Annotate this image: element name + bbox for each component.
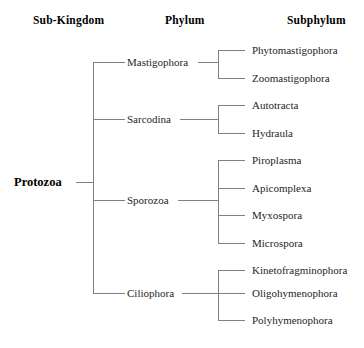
node-sporozoa: Sporozoa <box>127 194 169 206</box>
connector-phylum-arm-sarcodina <box>93 119 125 120</box>
node-zoomastigophora: Zoomastigophora <box>252 72 330 84</box>
connector-phylum-arm-sporozoa <box>93 200 125 201</box>
node-ciliophora: Ciliophora <box>127 287 174 299</box>
taxonomy-tree-diagram: Sub-Kingdom Phylum Subphylum Protozoa Ma… <box>0 0 364 348</box>
connector-arm-zoomastigophora <box>218 78 245 79</box>
node-hydraula: Hydraula <box>252 127 293 139</box>
node-piroplasma: Piroplasma <box>252 154 302 166</box>
node-microspora: Microspora <box>252 237 303 249</box>
column-header-subphylum: Subphylum <box>287 14 346 26</box>
connector-arm-hydraula <box>218 133 245 134</box>
column-header-sub-kingdom: Sub-Kingdom <box>33 14 104 26</box>
connector-mastigophora-stub <box>198 62 218 63</box>
connector-sporozoa-stub <box>178 200 218 201</box>
node-apicomplexa: Apicomplexa <box>252 182 311 194</box>
node-oligohymenophora: Oligohymenophora <box>252 287 338 299</box>
node-kinetofragminophora: Kinetofragminophora <box>252 264 347 276</box>
connector-arm-kinetofragminophora <box>218 270 245 271</box>
node-myxospora: Myxospora <box>252 209 302 221</box>
node-polyhymenophora: Polyhymenophora <box>252 314 333 326</box>
connector-sarcodina-spine <box>218 105 219 133</box>
connector-phylum-arm-mastigophora <box>93 62 125 63</box>
connector-sarcodina-stub <box>180 119 218 120</box>
node-mastigophora: Mastigophora <box>127 56 188 68</box>
column-header-phylum: Phylum <box>165 14 205 26</box>
node-sarcodina: Sarcodina <box>127 113 171 125</box>
connector-arm-oligohymenophora <box>218 293 245 294</box>
node-autotracta: Autotracta <box>252 99 298 111</box>
connector-sporozoa-spine <box>218 160 219 243</box>
connector-ciliophora-spine <box>218 270 219 320</box>
connector-mastigophora-spine <box>218 50 219 78</box>
connector-arm-polyhymenophora <box>218 320 245 321</box>
connector-phylum-arm-ciliophora <box>93 293 125 294</box>
connector-arm-autotracta <box>218 105 245 106</box>
connector-arm-myxospora <box>218 215 245 216</box>
connector-root-spine <box>93 62 94 293</box>
connector-ciliophora-stub <box>182 293 218 294</box>
connector-root-stub <box>76 182 93 183</box>
connector-arm-apicomplexa <box>218 188 245 189</box>
connector-arm-phytomastigophora <box>218 50 245 51</box>
connector-arm-microspora <box>218 243 245 244</box>
connector-arm-piroplasma <box>218 160 245 161</box>
node-phytomastigophora: Phytomastigophora <box>252 44 338 56</box>
node-protozoa: Protozoa <box>14 175 62 190</box>
